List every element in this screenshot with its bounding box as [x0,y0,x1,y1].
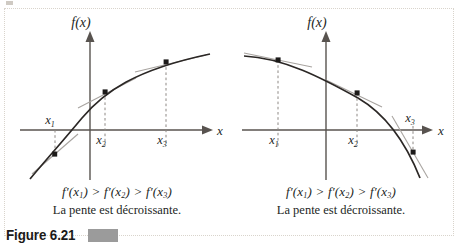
right-y-axis [322,31,331,180]
figure-color-swatch [88,229,118,242]
left-curve [30,54,210,179]
right-tangent-lines [244,53,428,178]
left-tick-label-x1: x1 [44,113,55,129]
figure-caption-bar: Figure 6.21 [6,224,118,246]
figure-page: f(x) x x1 x2 x3 f′(x1) > f′(x2) > f′(x3)… [0,0,460,251]
left-caption-formula: f′(x1) > f′(x2) > f′(x3) [6,184,228,200]
right-curve [244,56,420,178]
right-tick-label-x2: x2 [347,133,358,149]
right-caption-formula: f′(x1) > f′(x2) > f′(x3) [230,184,452,200]
left-tangent-lines [32,55,206,174]
left-tick-label-x2: x2 [95,133,106,149]
graph-panel-right: f(x) x x1 x2 x3 f′(x1) > f′(x2) > f′(x3)… [230,8,452,226]
right-caption-text: La pente est décroissante. [230,203,452,218]
right-tangent-points [276,57,416,154]
graph-panel-left: f(x) x x1 x2 x3 f′(x1) > f′(x2) > f′(x3)… [6,8,228,226]
left-tangent-points [52,59,168,156]
page-speck [6,1,13,5]
left-caption-text: La pente est décroissante. [6,203,228,218]
left-tick-label-x3: x3 [156,133,167,149]
right-graph-svg: f(x) x x1 x2 x3 [230,8,452,180]
right-tick-label-x1: x1 [268,133,279,149]
right-dashed-lines [278,60,413,154]
figure-number-label: Figure 6.21 [6,227,75,243]
right-x-axis-label: x [437,123,444,138]
left-x-axis-label: x [216,123,223,138]
left-y-axis-label: f(x) [71,15,91,31]
left-graph-svg: f(x) x x1 x2 x3 [6,8,228,180]
left-dashed-lines [55,62,166,155]
right-y-axis-label: f(x) [307,15,327,31]
right-tick-label-x3: x3 [404,111,415,127]
